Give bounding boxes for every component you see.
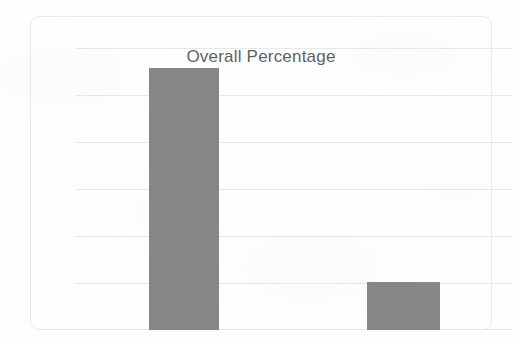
gridline-6	[76, 283, 512, 284]
gridline-4	[76, 189, 512, 190]
gridline-baseline	[76, 329, 512, 330]
gridline-2	[76, 95, 512, 96]
bar-2	[367, 282, 440, 330]
chart-screenshot: Overall Percentage	[0, 0, 520, 344]
plot-area	[76, 48, 512, 330]
bar-1	[149, 68, 219, 330]
gridline-top	[76, 48, 512, 49]
chart-frame: Overall Percentage	[30, 16, 492, 330]
gridline-3	[76, 142, 512, 143]
gridline-5	[76, 236, 512, 237]
